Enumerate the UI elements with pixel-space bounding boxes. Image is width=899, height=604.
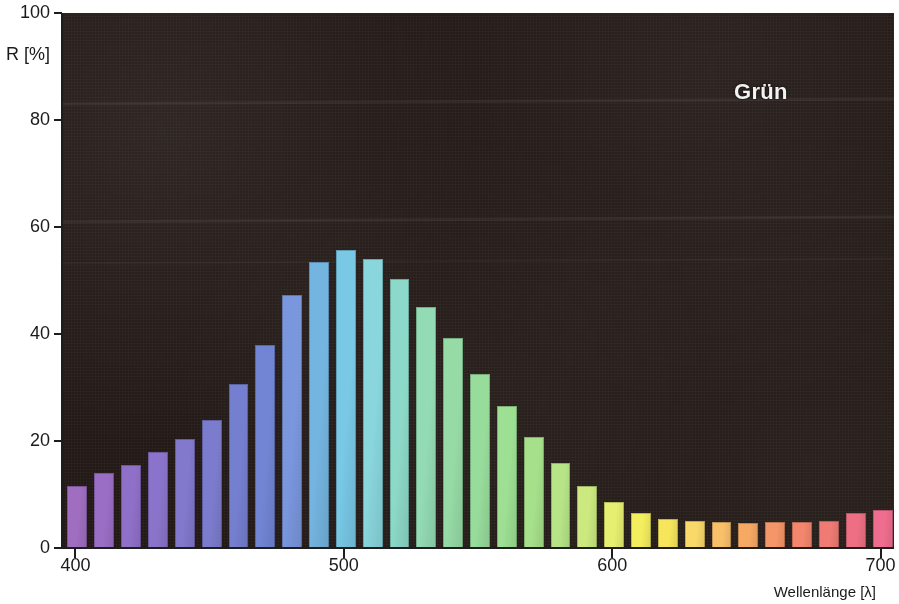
y-axis-tick-label: 80 (4, 110, 50, 128)
bar (470, 374, 490, 548)
bar (524, 437, 544, 548)
x-axis-tick-label: 600 (572, 556, 652, 574)
y-axis-tick (54, 547, 62, 549)
x-axis-title: Wellenlänge [λ] (774, 583, 876, 600)
bar (685, 521, 705, 548)
x-axis-tick-label: 500 (304, 556, 384, 574)
bar (792, 522, 812, 548)
bar (873, 510, 893, 548)
x-axis-tick-label: 400 (35, 556, 115, 574)
chart-title: Grün (734, 79, 788, 105)
bar (255, 345, 275, 548)
bar (765, 522, 785, 548)
bar (443, 338, 463, 548)
y-axis-tick-label: 40 (4, 324, 50, 342)
bar (577, 486, 597, 548)
y-axis-tick (54, 12, 62, 14)
bar (121, 465, 141, 548)
bar (712, 522, 732, 548)
bar (336, 250, 356, 548)
bar (282, 295, 302, 548)
bar (67, 486, 87, 548)
bar (94, 473, 114, 548)
y-axis-tick-label: 100 (4, 3, 50, 21)
bar (604, 502, 624, 548)
bar (631, 513, 651, 548)
y-axis-tick-label: 60 (4, 217, 50, 235)
y-axis-line (61, 13, 63, 549)
y-axis-tick (54, 333, 62, 335)
y-axis-title: R [%] (6, 44, 50, 65)
bar (175, 439, 195, 548)
y-axis-tick (54, 226, 62, 228)
y-axis-tick (54, 440, 62, 442)
bar (658, 519, 678, 548)
bar (846, 513, 866, 548)
y-axis-tick-label: 20 (4, 431, 50, 449)
bar (738, 523, 758, 548)
y-axis-tick (54, 119, 62, 121)
bar (229, 384, 249, 548)
bar (819, 521, 839, 548)
bar (390, 279, 410, 548)
bar (202, 420, 222, 548)
bar (416, 307, 436, 548)
bar (551, 463, 571, 548)
bar (363, 259, 383, 548)
bar (497, 406, 517, 548)
bar (309, 262, 329, 548)
x-axis-line (61, 547, 894, 549)
bar (148, 452, 168, 548)
x-axis-tick-label: 700 (841, 556, 899, 574)
y-axis-tick-label: 0 (4, 538, 50, 556)
